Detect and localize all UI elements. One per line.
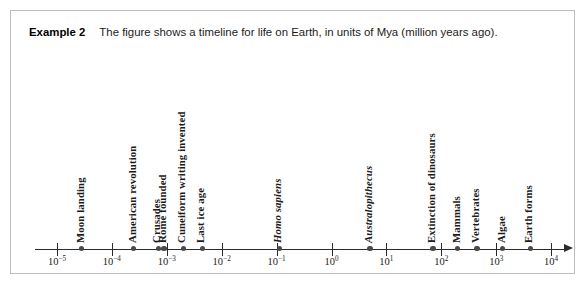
axis-tick-label: 100 <box>324 256 338 267</box>
event-dot <box>455 246 460 251</box>
example-label: Example 2 <box>29 26 85 38</box>
axis-line <box>35 249 566 250</box>
axis-tick-label: 102 <box>434 256 448 267</box>
event-label: Algae <box>495 216 507 243</box>
event-label: Homo sapiens <box>271 179 283 244</box>
event-label: Mammals <box>450 196 462 243</box>
event-label: Earth forms <box>522 185 534 243</box>
event-label: Australopithecus <box>362 166 374 243</box>
figure-box: Example 2The figure shows a timeline for… <box>10 10 575 274</box>
event-dot <box>156 246 161 251</box>
event-dot <box>367 246 372 251</box>
axis-tick <box>332 243 333 256</box>
event-dot <box>430 246 435 251</box>
page-canvas: Example 2The figure shows a timeline for… <box>0 0 587 285</box>
axis-tick-label: 10−1 <box>268 256 286 267</box>
event-dot <box>161 246 166 251</box>
axis-tick-label: 104 <box>544 256 558 267</box>
axis-tick-label: 10−2 <box>213 256 231 267</box>
event-label: Rome founded <box>156 174 168 243</box>
event-label: American revolution <box>126 146 138 243</box>
axis-tick <box>441 243 442 256</box>
event-label: Extinction of dinosaurs <box>425 133 437 243</box>
axis-tick <box>386 243 387 256</box>
event-label: Moon landing <box>74 177 86 243</box>
axis-tick-label: 10−3 <box>158 256 176 267</box>
axis-tick-label: 10−5 <box>48 256 66 267</box>
axis-tick <box>551 243 552 256</box>
event-dot <box>500 246 505 251</box>
event-dot <box>474 246 479 251</box>
event-label: Vertebrates <box>469 188 481 243</box>
event-dot <box>181 246 186 251</box>
example-caption: Example 2The figure shows a timeline for… <box>29 25 559 41</box>
caption-text: The figure shows a timeline for life on … <box>99 26 497 38</box>
event-dot <box>200 246 205 251</box>
event-dot <box>528 246 533 251</box>
event-label: Last ice age <box>194 188 206 243</box>
event-label: Cuneiform writing invented <box>175 111 187 243</box>
event-dot <box>79 246 84 251</box>
axis-arrowhead-icon <box>564 244 573 252</box>
axis-tick-label: 103 <box>489 256 503 267</box>
event-dot <box>277 246 282 251</box>
axis-tick-label: 101 <box>379 256 393 267</box>
timeline-chart: 10−510−410−310−210−1100101102103104 Moon… <box>11 11 587 285</box>
axis-tick <box>496 243 497 256</box>
axis-tick-label: 10−4 <box>103 256 121 267</box>
event-dot <box>131 246 136 251</box>
